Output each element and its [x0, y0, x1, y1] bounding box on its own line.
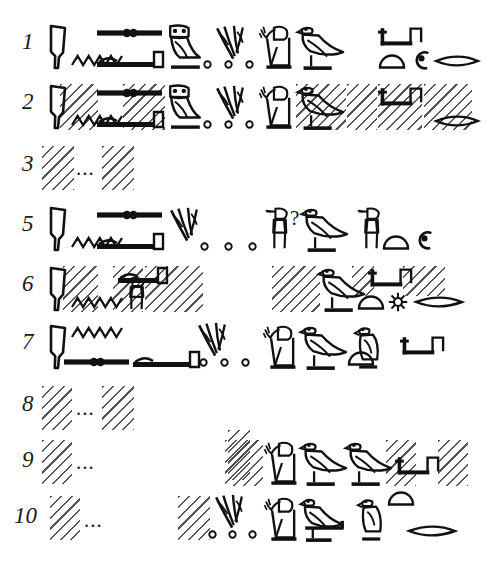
- line-number: 2: [22, 90, 34, 113]
- ellipsis-marker: ...: [76, 452, 95, 473]
- folded-stand-sign: [378, 27, 422, 47]
- falcon-sign: [300, 324, 347, 370]
- falcon-on-perch-sign: [300, 496, 352, 542]
- fish-mouth-sign: [415, 295, 463, 309]
- plural-dot-3: [245, 60, 254, 69]
- fish-mouth-sign: [435, 54, 479, 68]
- bread-loaf-sign: [383, 236, 409, 250]
- line-number: 10: [14, 504, 37, 527]
- line-number: 8: [22, 392, 34, 415]
- falcon-sign: [300, 440, 347, 486]
- line-number: 1: [22, 30, 34, 53]
- line-number: 7: [22, 330, 34, 353]
- lacuna-block: [272, 266, 320, 312]
- folded-stand-sign: [400, 336, 444, 356]
- lacuna-block: [42, 386, 72, 430]
- falcon-sign: [297, 84, 344, 130]
- adoring-man-sign: [263, 440, 301, 486]
- bird-standing-sign: [355, 496, 391, 542]
- plural-dot-1: [199, 358, 208, 367]
- adoring-man-sign: [263, 496, 301, 542]
- plural-dot-1: [200, 242, 209, 251]
- standing-offerer-sign: [355, 206, 382, 252]
- falcon-sign: [301, 206, 348, 252]
- bread-loaf-sign: [388, 492, 414, 506]
- plural-dot-1: [203, 60, 212, 69]
- lacuna-block: [347, 84, 377, 130]
- lasso-bar-sign: [133, 350, 200, 370]
- ellipsis-marker: ...: [76, 398, 95, 419]
- lacuna-block: [42, 440, 72, 484]
- reed-knife-sign: [48, 266, 68, 312]
- uncertain-reading-mark: ?: [290, 208, 300, 229]
- folded-stand-sign: [368, 268, 412, 288]
- line-number: 5: [22, 212, 34, 235]
- ellipsis-marker: ...: [84, 510, 103, 531]
- standing-offerer-sign: [263, 206, 290, 252]
- bread-loaf-sign: [379, 55, 405, 69]
- plural-dot-2: [220, 358, 229, 367]
- water-ripple-sign: [72, 325, 122, 339]
- fish-mouth-sign: [435, 114, 479, 128]
- coil-rope-sign: [412, 50, 431, 70]
- beam-with-beads-sign: [97, 87, 162, 99]
- lacuna-block: [50, 496, 80, 540]
- plural-dot-3: [245, 120, 254, 129]
- reed-knife-sign: [48, 84, 68, 130]
- rosette-sign: [388, 292, 408, 312]
- lacuna-block: [178, 496, 210, 540]
- beam-with-beads-sign: [97, 27, 162, 39]
- plural-dot-1: [208, 530, 217, 539]
- adoring-man-sign: [262, 324, 300, 370]
- lacuna-block: [102, 386, 134, 430]
- lacuna-block: [42, 146, 74, 190]
- plural-dot-2: [224, 60, 233, 69]
- plural-dot-2: [228, 530, 237, 539]
- owl-sign: [163, 84, 203, 130]
- plural-dot-3: [248, 530, 257, 539]
- lacuna-block: [438, 440, 468, 486]
- plural-dot-3: [241, 358, 250, 367]
- plural-dot-2: [224, 120, 233, 129]
- reed-knife-sign: [48, 24, 68, 70]
- lasso-bar-sign: [97, 110, 164, 130]
- plural-dot-2: [224, 242, 233, 251]
- line-number: 3: [22, 152, 34, 175]
- lacuna-block: [225, 440, 263, 486]
- plural-dot-1: [203, 120, 212, 129]
- bread-loaf-sign: [358, 296, 384, 310]
- beam-with-beads-sign: [64, 356, 129, 368]
- falcon-sign: [297, 24, 344, 70]
- folded-stand-sign: [378, 87, 422, 107]
- adoring-man-sign: [258, 84, 296, 130]
- adoring-man-sign: [258, 24, 296, 70]
- ellipsis-marker: ...: [76, 158, 95, 179]
- reed-knife-sign: [48, 206, 68, 252]
- lacuna-block: [102, 146, 134, 190]
- beam-with-beads-sign: [97, 209, 162, 221]
- standing-figure-sign: [120, 276, 147, 312]
- owl-sign: [163, 24, 203, 70]
- bird-standing-sign: [352, 324, 388, 370]
- hieroglyph-plate: 123...5?678...9...10...: [0, 0, 496, 570]
- folded-stand-sign: [395, 456, 439, 476]
- water-ripple-sign: [72, 295, 122, 309]
- line-number: 6: [22, 272, 34, 295]
- line-number: 9: [22, 448, 34, 471]
- lasso-bar-sign: [97, 232, 164, 252]
- fish-mouth-sign: [408, 524, 456, 538]
- falcon-sign: [345, 440, 392, 486]
- lasso-bar-sign: [97, 50, 164, 70]
- coil-rope-sign: [415, 230, 434, 250]
- plural-dot-3: [248, 242, 257, 251]
